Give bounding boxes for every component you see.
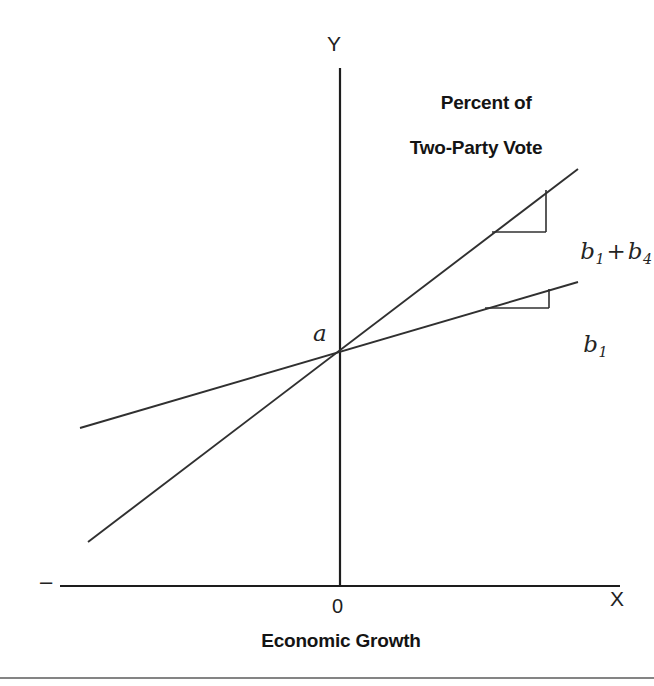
origin-tick-label: 0 xyxy=(332,596,343,616)
slope-flat-base: b xyxy=(583,331,598,357)
chart-title: Percent of Two-Party Vote xyxy=(378,74,574,195)
slope-label-steep: b1+b4 xyxy=(551,217,652,289)
x-axis-caption: Economic Growth xyxy=(216,631,466,650)
regression-line-steep xyxy=(88,169,578,542)
slope-steep-base-2: b xyxy=(628,238,643,264)
slope-steep-subscript: 1 xyxy=(595,251,605,267)
slope-triangle-flat xyxy=(485,289,549,308)
regression-line-flat xyxy=(80,282,578,428)
slope-steep-base: b xyxy=(580,238,595,264)
y-axis-letter: Y xyxy=(327,33,341,54)
slope-flat-subscript: 1 xyxy=(598,344,608,360)
negative-sign-label: – xyxy=(40,571,52,593)
slope-label-flat: b1 xyxy=(554,310,608,382)
chart-title-line-1: Percent of xyxy=(441,92,532,113)
x-axis-letter: X xyxy=(610,588,624,609)
slope-triangle-steep xyxy=(492,190,546,232)
intercept-label: a xyxy=(313,322,327,345)
chart-title-line-2: Two-Party Vote xyxy=(378,138,574,157)
economic-growth-vote-figure: Y X Percent of Two-Party Vote 0 – Econom… xyxy=(0,0,654,686)
slope-steep-operator: + xyxy=(605,238,628,264)
slope-steep-subscript-2: 4 xyxy=(643,251,653,267)
